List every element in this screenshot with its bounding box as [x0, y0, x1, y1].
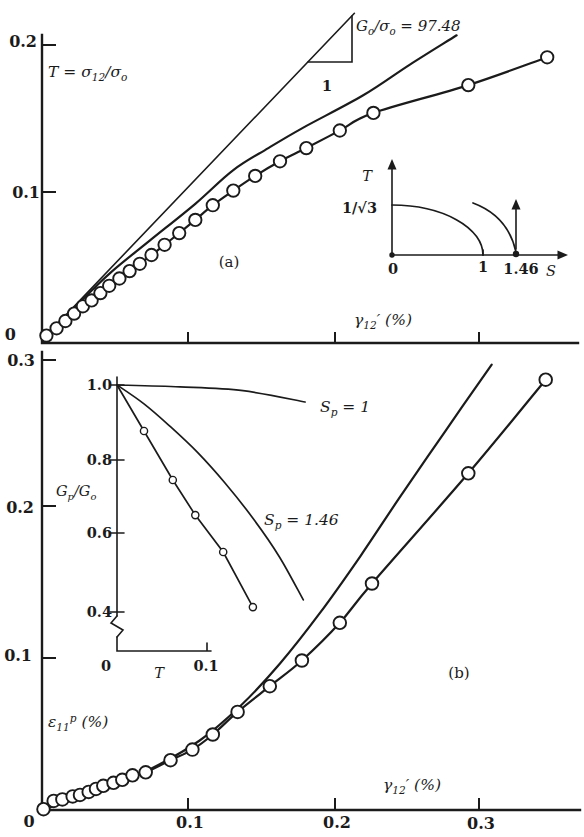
data-point-marker: [186, 743, 199, 756]
inset-b-ytick-0.6: 0.6: [87, 524, 112, 541]
inset-b-ytick-1.0: 1.0: [87, 376, 112, 393]
inset-a-origin-dot: [389, 252, 394, 257]
inset-b-xtick-0: 0: [101, 657, 111, 674]
data-point-marker: [140, 427, 147, 434]
chart-b-experiment-markers: [37, 373, 552, 815]
data-point-marker: [164, 754, 177, 767]
data-point-marker: [173, 227, 185, 239]
inset-a-curve-s1: [392, 205, 483, 255]
inset-b-ytick-0.8: 0.8: [87, 451, 112, 468]
inset-b-xtick-0.1: 0.1: [193, 657, 218, 674]
hardening-inset-sketch: T 1/√3 0 1 1.46 S: [342, 159, 568, 279]
inset-b-experiment-curve: [117, 385, 253, 607]
inset-a-curve-s146: [473, 203, 516, 252]
inset-a-right-arrowhead: [558, 251, 569, 260]
data-point-marker: [334, 617, 347, 630]
inset-b-axis-break: [111, 616, 123, 637]
inset-a-ylabel: T: [362, 168, 373, 184]
chart-b-x-ticks: [188, 798, 479, 810]
data-point-marker: [220, 548, 227, 555]
data-point-marker: [192, 511, 199, 518]
data-point-marker: [462, 467, 475, 480]
chart-b-x-axis-label: γ12′ (%): [383, 776, 441, 796]
data-point-marker: [227, 184, 239, 196]
chart-a-ytick-0: 0: [5, 325, 16, 344]
chart-b-ytick-0.3: 0.3: [7, 351, 35, 370]
inset-b-x-axis-label: T: [154, 665, 165, 681]
inset-a-s146-dot: [513, 251, 519, 257]
inset-a-xtick-1.46: 1.46: [503, 260, 538, 277]
chart-b-y-ticks: [42, 360, 56, 658]
data-point-marker: [189, 214, 201, 226]
data-point-marker: [300, 142, 312, 154]
chart-a-tag: (a): [219, 253, 240, 271]
chart-b-axes: [42, 352, 580, 810]
chart-a-ytick-0.2: 0.2: [9, 32, 37, 51]
inset-b-sp1-curve: [117, 385, 305, 402]
inset-a-yvalue-label: 1/√3: [342, 199, 377, 216]
shear-stress-chart: 0.2 0.1 0 T = σ12/σo γ12′ (%) (a) 1 Go/σ…: [5, 13, 578, 344]
data-point-marker: [367, 107, 379, 119]
inset-a-up-arrowhead: [388, 159, 397, 170]
inset-a-vertical-arrowhead: [512, 199, 521, 210]
slope-run-label: 1: [322, 77, 332, 95]
data-point-marker: [249, 604, 256, 611]
chart-b-xtick-0.1: 0.1: [176, 813, 204, 832]
data-point-marker: [366, 577, 379, 590]
chart-b-tag: (b): [448, 664, 469, 682]
data-point-marker: [134, 258, 146, 270]
inset-a-xtick-1: 1: [478, 258, 488, 275]
chart-b-ytick-0.2: 0.2: [6, 498, 34, 517]
data-point-marker: [145, 249, 157, 261]
modulus-inset-chart: 1.0 0.8 0.6 0.4 0 0.1 Gp/Go T Sp = 1 Sp …: [56, 376, 370, 681]
chart-b-y-axis-label: ε11p (%): [48, 712, 108, 733]
data-point-marker: [296, 654, 309, 667]
chart-a-experiment-markers: [40, 51, 553, 342]
data-point-marker: [169, 476, 176, 483]
figure: 0.2 0.1 0 T = σ12/σo γ12′ (%) (a) 1 Go/σ…: [0, 0, 584, 837]
chart-a-y-axis-label: T = σ12/σo: [48, 63, 127, 83]
chart-b-xtick-0.3: 0.3: [467, 814, 495, 833]
data-point-marker: [264, 680, 277, 693]
data-point-marker: [334, 124, 346, 136]
data-point-marker: [539, 373, 552, 386]
data-point-marker: [126, 769, 139, 782]
data-point-marker: [274, 155, 286, 167]
inset-b-sp1-label: Sp = 1: [320, 398, 370, 418]
data-point-marker: [249, 170, 261, 182]
inset-b-sp146-label: Sp = 1.46: [264, 511, 339, 531]
chart-b-ytick-0.1: 0.1: [4, 646, 32, 665]
inset-b-ytick-0.4: 0.4: [87, 603, 112, 620]
figure-svg: 0.2 0.1 0 T = σ12/σo γ12′ (%) (a) 1 Go/σ…: [0, 0, 584, 837]
inset-a-xtick-0: 0: [388, 260, 398, 277]
chart-b-xtick-0.2: 0.2: [323, 813, 351, 832]
data-point-marker: [139, 766, 152, 779]
inset-a-xlabel: S: [546, 263, 556, 279]
inset-b-y-axis-label: Gp/Go: [56, 483, 96, 502]
chart-b-experiment-curve: [44, 380, 546, 810]
chart-a-experiment-curve: [46, 57, 547, 335]
data-point-marker: [231, 706, 244, 719]
chart-a-x-ticks: [188, 332, 479, 343]
chart-b-prediction-curve: [42, 365, 492, 810]
data-point-marker: [541, 51, 553, 63]
chart-b-xtick-0: 0: [23, 812, 34, 831]
data-point-marker: [207, 199, 219, 211]
slope-value-label: Go/σo = 97.48: [356, 17, 461, 37]
chart-a-x-axis-label: γ12′ (%): [354, 311, 412, 331]
data-point-marker: [158, 239, 170, 251]
data-point-marker: [462, 79, 474, 91]
data-point-marker: [207, 728, 220, 741]
inset-b-sp146-curve: [117, 385, 303, 600]
chart-a-ytick-0.1: 0.1: [12, 183, 40, 202]
plastic-strain-chart: 0.3 0.2 0.1 0 0.1 0.2 0.3 ε11p (%) γ12′ …: [4, 351, 580, 833]
